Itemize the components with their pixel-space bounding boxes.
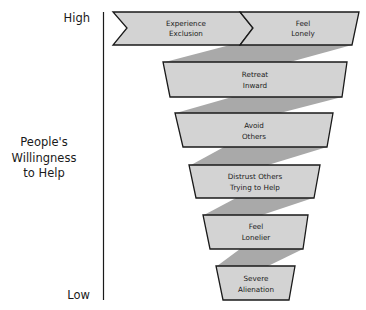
stage-label: Retreat	[242, 70, 269, 79]
stage-label: Trying to Help	[229, 183, 280, 192]
axis-title-line-3: to Help	[23, 166, 64, 180]
connector-1	[165, 45, 352, 62]
stage-label: Exclusion	[169, 29, 203, 38]
connector-2	[176, 97, 342, 113]
stage-label: Lonely	[291, 29, 315, 38]
stage-retreat-inward	[163, 62, 347, 97]
stage-label: Lonelier	[242, 233, 271, 242]
connector-4	[204, 198, 313, 215]
stage-label: Inward	[243, 81, 267, 90]
funnel-diagram: High Low People's Willingness to Help Ex…	[0, 0, 366, 310]
stage-severe-alienation	[216, 266, 295, 300]
stage-label: Experience	[166, 19, 207, 28]
stage-label: Distrust Others	[228, 172, 283, 181]
stage-avoid-others	[175, 113, 333, 147]
axis-title-line-2: Willingness	[12, 151, 77, 165]
connector-3	[191, 147, 327, 165]
stage-distrust-others	[189, 165, 320, 198]
stage-label: Feel	[296, 19, 311, 28]
axis-low-label: Low	[67, 288, 90, 302]
stage-feel-lonelier	[203, 215, 308, 249]
stage-label: Alienation	[238, 285, 274, 294]
stage-label: Others	[242, 132, 266, 141]
axis-title-line-1: People's	[20, 135, 67, 149]
stage-label: Avoid	[244, 121, 264, 130]
stage-label: Feel	[249, 222, 264, 231]
axis-high-label: High	[64, 11, 90, 25]
connector-5	[217, 249, 303, 266]
stage-label: Severe	[244, 274, 269, 283]
